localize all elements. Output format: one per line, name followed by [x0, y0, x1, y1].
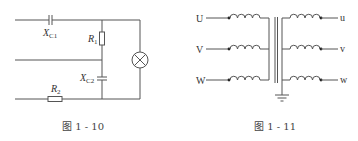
- capacitor-xc2: [97, 77, 107, 80]
- resistor-r1: [100, 32, 105, 45]
- label-xc2: XC2: [79, 72, 95, 85]
- secondary-label: v: [340, 43, 345, 54]
- figures-canvas: XC1 R1 XC2 R2 图 1 - 10 UuVvWw 图 1 - 1: [0, 0, 358, 141]
- primary-coil: [230, 45, 260, 49]
- primary-label: V: [196, 44, 204, 55]
- primary-label: U: [196, 13, 204, 24]
- secondary-coil: [290, 76, 320, 80]
- secondary-coil: [290, 45, 320, 49]
- lamp-icon: [132, 52, 148, 68]
- label-r1: R1: [87, 33, 98, 46]
- secondary-coil: [290, 14, 320, 18]
- transformer-fig-1-11: UuVvWw: [196, 12, 348, 101]
- primary-label: W: [196, 75, 206, 86]
- secondary-label: w: [340, 74, 348, 85]
- caption-fig-1-11: 图 1 - 11: [254, 121, 296, 132]
- circuit-fig-1-10: XC1 R1 XC2 R2 图 1 - 10: [15, 15, 148, 132]
- primary-coil: [230, 14, 260, 18]
- label-r2: R2: [50, 83, 61, 96]
- caption-fig-1-10: 图 1 - 10: [62, 121, 104, 132]
- capacitor-xc1: [49, 15, 52, 25]
- label-xc1: XC1: [42, 27, 58, 40]
- primary-coil: [230, 76, 260, 80]
- resistor-r2: [48, 97, 62, 102]
- secondary-label: u: [340, 12, 345, 23]
